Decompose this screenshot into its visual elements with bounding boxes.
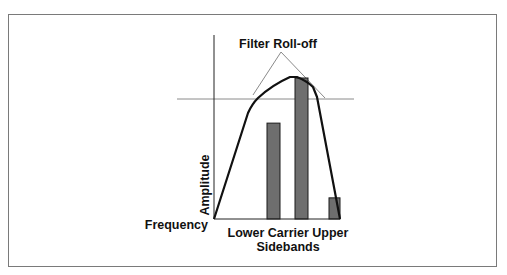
rolloff-pointer-left bbox=[253, 52, 281, 95]
bar-labels-line2: Sidebands bbox=[256, 240, 319, 254]
amplitude-axis-label: Amplitude bbox=[198, 154, 212, 215]
diagram-title: Filter Roll-off bbox=[239, 37, 318, 51]
bar-lower-sideband bbox=[267, 123, 280, 219]
frequency-axis-label: Frequency bbox=[145, 218, 208, 232]
filter-rolloff-diagram: Filter Roll-off Amplitude Frequency Lowe… bbox=[0, 0, 507, 275]
bar-labels-line1: Lower Carrier Upper bbox=[228, 226, 349, 240]
bar-carrier bbox=[295, 78, 308, 219]
